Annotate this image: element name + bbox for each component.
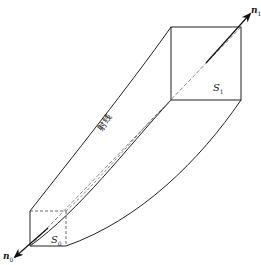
tube-edge-bottom bbox=[66, 100, 241, 246]
ray-tube-diagram bbox=[0, 0, 261, 265]
area-s1-label: S1 bbox=[213, 82, 224, 95]
normal-n1-arrow bbox=[206, 14, 250, 63]
normal-n0-arrow bbox=[15, 228, 48, 257]
area-s0-label: S0 bbox=[51, 234, 62, 247]
normal-n0-label: n0 bbox=[3, 251, 13, 263]
normal-n1-label: n1 bbox=[251, 5, 261, 17]
